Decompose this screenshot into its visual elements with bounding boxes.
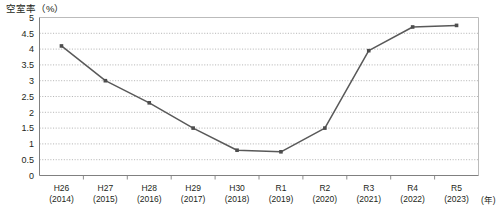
data-point-marker [104,79,108,83]
series-line [61,25,456,151]
y-tick-label: 2.5 [21,92,34,102]
data-point-marker [235,148,239,152]
x-tick-label-year: (2023) [444,194,469,204]
x-tick-label-year: (2020) [313,194,338,204]
y-tick-label: 3.5 [21,60,34,70]
x-tick-label-year: (2021) [356,194,381,204]
x-tick-label-era: R1 [276,183,287,193]
y-axis-ticks: 00.511.522.533.544.55 [21,13,34,181]
x-tick-label-year: (2022) [400,194,425,204]
y-tick-label: 4.5 [21,29,34,39]
y-tick-label: 1 [29,139,34,149]
x-tick-label-era: R3 [363,183,374,193]
x-tick-label-era: H26 [54,183,70,193]
data-point-marker [323,126,327,130]
y-tick-label: 2 [29,108,34,118]
vacancy-rate-line-chart: 空室率（%） (年) 00.511.522.533.544.55 H26(201… [0,0,501,215]
x-axis-ticks: H26(2014)H27(2015)H28(2016)H29(2017)H30(… [49,176,469,204]
data-point-marker [279,150,283,154]
y-tick-label: 0 [29,171,34,181]
x-tick-label-year: (2014) [49,194,74,204]
data-point-marker [367,49,371,53]
x-tick-label-era: H30 [229,183,245,193]
x-tick-label-era: R5 [451,183,462,193]
x-tick-label-era: H28 [141,183,157,193]
data-point-marker [147,101,151,105]
x-tick-label-era: H27 [98,183,114,193]
y-tick-label: 1.5 [21,123,34,133]
x-tick-label-year: (2018) [225,194,250,204]
x-tick-label-year: (2016) [137,194,162,204]
data-point-marker [411,25,415,29]
data-point-marker [455,24,459,28]
x-tick-label-year: (2019) [269,194,294,204]
y-tick-label: 0.5 [21,155,34,165]
y-tick-label: 5 [29,13,34,23]
data-point-marker [60,44,64,48]
x-tick-label-era: H29 [185,183,201,193]
y-tick-label: 3 [29,76,34,86]
plot-area: 00.511.522.533.544.55 H26(2014)H27(2015)… [0,0,501,215]
x-tick-label-year: (2015) [93,194,118,204]
data-point-marker [191,126,195,130]
x-tick-label-year: (2017) [181,194,206,204]
y-tick-label: 4 [29,44,34,54]
x-tick-label-era: R4 [407,183,418,193]
data-series [61,25,456,151]
gridlines [40,33,479,159]
x-tick-label-era: R2 [319,183,330,193]
